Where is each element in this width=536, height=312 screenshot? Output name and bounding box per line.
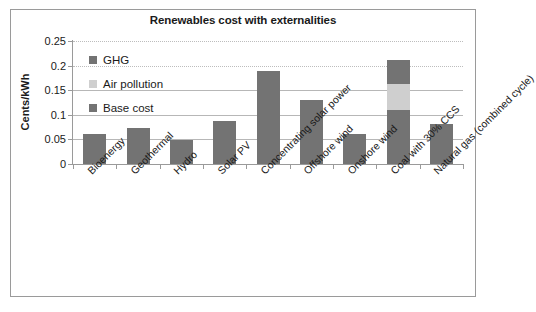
legend-swatch-ghg-icon [89,56,97,64]
y-tick-label: 0 [60,158,66,170]
y-tick-label: 0.05 [45,133,66,145]
legend-swatch-air-pollution-icon [89,80,97,88]
legend-item-air-pollution: Air pollution [89,72,219,96]
bar-segment[interactable] [387,60,410,84]
legend-swatch-base-cost-icon [89,104,97,112]
x-axis-labels: BioenergyGeothermalHydroSolar PVConcentr… [73,168,463,296]
chart-title: Renewables cost with externalities [11,14,475,26]
legend-label-air-pollution: Air pollution [103,78,163,90]
y-axis-line [72,40,73,165]
gridline [73,41,463,42]
y-tick-label: 0.2 [51,60,66,72]
y-tick-label: 0.15 [45,84,66,96]
legend-label-base-cost: Base cost [103,102,154,114]
y-tick-label: 0.25 [45,35,66,47]
chart-container: Renewables cost with externalities Cents… [10,9,476,297]
legend-label-ghg: GHG [103,54,129,66]
legend-item-ghg: GHG [89,48,219,72]
chart-legend: GHG Air pollution Base cost [89,48,219,120]
bar-segment[interactable] [387,84,410,110]
y-tick-label: 0.1 [51,109,66,121]
legend-item-base-cost: Base cost [89,96,219,120]
x-tick-mark [463,164,464,169]
y-axis-label: Cents/kWh [19,67,31,137]
